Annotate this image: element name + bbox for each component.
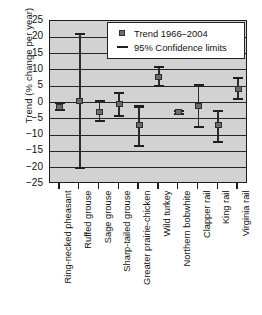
confidence-upper-cap <box>134 105 144 107</box>
x-category-label-king-rail: King rail <box>221 190 231 224</box>
x-label-text: Ruffed grouse <box>83 191 93 249</box>
y-tick-label: −20 <box>26 162 43 172</box>
trend-marker <box>136 122 143 128</box>
confidence-lower-cap <box>194 126 204 128</box>
x-tick <box>137 183 138 189</box>
x-label-text: Greater prairie-chicken <box>142 191 152 286</box>
x-label-text: King rail <box>221 191 231 225</box>
x-category-label-sharp-tailed-grouse: Sharp-tailed grouse <box>122 190 132 271</box>
y-tick-label: 10 <box>32 64 43 74</box>
confidence-lower-cap <box>95 120 105 122</box>
confidence-upper-cap <box>213 110 223 112</box>
x-category-label-northern-bobwhite: Northern bobwhite <box>182 190 192 266</box>
x-tick <box>98 183 99 189</box>
x-label-text: Sage grouse <box>103 191 113 244</box>
trend-marker <box>96 109 103 115</box>
y-tick-label: −25 <box>26 178 43 188</box>
x-category-label-wild-turkey: Wild turkey <box>162 190 172 236</box>
trend-marker <box>116 101 123 107</box>
trend-marker <box>175 109 182 115</box>
x-label-text: Sharp-tailed grouse <box>122 191 132 272</box>
chart-legend: Trend 1966–2004 95% Confidence limits <box>107 22 245 59</box>
x-label-text: Clapper rail <box>202 191 212 239</box>
confidence-upper-cap <box>55 102 65 104</box>
confidence-lower-cap <box>213 141 223 143</box>
x-category-label-clapper-rail: Clapper rail <box>202 190 212 238</box>
trend-marker <box>155 74 162 80</box>
trend-marker <box>76 98 83 104</box>
square-marker-icon <box>113 30 131 36</box>
y-tick-label: 15 <box>32 48 43 58</box>
line-marker-icon <box>113 46 131 48</box>
trend-marker <box>235 86 242 92</box>
x-tick <box>78 183 79 189</box>
y-tick-label: 5 <box>37 80 43 90</box>
y-axis-tick-labels: 2520151050−5−10−15−20−25 <box>13 20 45 183</box>
confidence-upper-cap <box>233 77 243 79</box>
legend-item-confidence: 95% Confidence limits <box>113 40 239 54</box>
y-tick-label: −10 <box>26 129 43 139</box>
trend-marker <box>56 104 63 110</box>
trend-marker <box>215 122 222 128</box>
x-category-label-ruffed-grouse: Ruffed grouse <box>83 190 93 248</box>
trend-marker <box>195 103 202 109</box>
x-axis-category-labels: Ring-necked pheasantRuffed grouseSage gr… <box>49 190 247 310</box>
x-axis-ticks <box>49 183 247 189</box>
confidence-upper-cap <box>95 100 105 102</box>
x-label-text: Virginia rail <box>241 191 251 237</box>
x-label-text: Wild turkey <box>162 191 172 237</box>
y-tick-label: 20 <box>32 31 43 41</box>
legend-label-confidence: 95% Confidence limits <box>131 42 227 53</box>
confidence-upper-cap <box>75 33 85 35</box>
x-tick <box>236 183 237 189</box>
y-tick-label: −15 <box>26 145 43 155</box>
x-tick <box>217 183 218 189</box>
x-label-text: Ring-necked pheasant <box>63 191 73 284</box>
legend-label-trend: Trend 1966–2004 <box>131 28 208 39</box>
confidence-lower-cap <box>134 145 144 147</box>
x-tick <box>118 183 119 189</box>
x-category-label-ring-necked-pheasant: Ring-necked pheasant <box>63 190 73 283</box>
x-tick <box>157 183 158 189</box>
x-tick <box>197 183 198 189</box>
confidence-lower-cap <box>233 98 243 100</box>
x-category-label-greater-prairie-chicken: Greater prairie-chicken <box>142 190 152 285</box>
trend-chart-figure: Trend (% change per year) 2520151050−5−1… <box>0 0 262 315</box>
x-category-label-sage-grouse: Sage grouse <box>103 190 113 243</box>
confidence-upper-cap <box>154 66 164 68</box>
y-tick-label: 25 <box>32 15 43 25</box>
confidence-lower-cap <box>114 115 124 117</box>
y-tick-label: −5 <box>32 113 43 123</box>
confidence-upper-cap <box>114 92 124 94</box>
confidence-upper-cap <box>194 84 204 86</box>
confidence-lower-cap <box>154 85 164 87</box>
y-tick-label: 0 <box>37 97 43 107</box>
confidence-lower-cap <box>75 167 85 169</box>
x-tick <box>58 183 59 189</box>
x-tick <box>177 183 178 189</box>
x-label-text: Northern bobwhite <box>182 191 192 267</box>
legend-item-trend: Trend 1966–2004 <box>113 26 239 40</box>
x-category-label-virginia-rail: Virginia rail <box>241 190 251 236</box>
